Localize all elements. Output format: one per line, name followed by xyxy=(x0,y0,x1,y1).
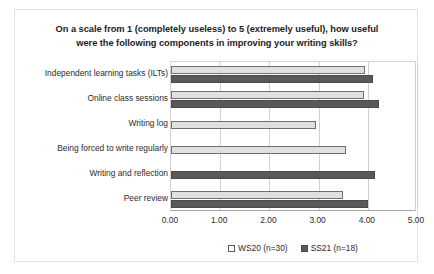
y-axis-labels: Independent learning tasks (ILTs)Online … xyxy=(17,61,168,211)
x-axis-tick-labels: 0.001.002.003.004.005.00 xyxy=(170,215,416,229)
bar xyxy=(171,200,368,208)
y-axis-label: Writing log xyxy=(20,118,168,128)
bar-group xyxy=(171,112,415,137)
bar xyxy=(171,171,375,179)
bar-group xyxy=(171,187,415,212)
legend-label: WS20 (n=30) xyxy=(238,243,288,253)
y-axis-label: Independent learning tasks (ILTs) xyxy=(20,68,168,78)
chart-card: On a scale from 1 (completely useless) t… xyxy=(14,9,418,262)
bar-group xyxy=(171,162,415,187)
chart-title: On a scale from 1 (completely useless) t… xyxy=(41,23,393,50)
bar xyxy=(171,75,373,83)
bar xyxy=(171,100,379,108)
bar-group xyxy=(171,62,415,87)
legend-entry[interactable]: SS21 (n=18) xyxy=(301,243,358,253)
open-square-icon xyxy=(228,245,235,252)
x-axis-tick-label: 1.00 xyxy=(211,215,227,225)
x-axis-tick-label: 3.00 xyxy=(309,215,325,225)
bar xyxy=(171,66,365,74)
bar xyxy=(171,121,316,129)
y-axis-label: Online class sessions xyxy=(20,93,168,103)
x-axis-tick-label: 4.00 xyxy=(359,215,375,225)
bar xyxy=(171,146,346,154)
bar xyxy=(171,91,364,99)
legend-entry[interactable]: WS20 (n=30) xyxy=(228,243,288,253)
bar-group xyxy=(171,87,415,112)
gridline xyxy=(417,62,418,210)
filled-square-icon xyxy=(301,245,308,252)
chart-title-line-1: On a scale from 1 (completely useless) t… xyxy=(41,23,393,37)
chart-title-line-2: were the following components in improvi… xyxy=(41,37,393,51)
y-axis-label: Writing and reflection xyxy=(20,168,168,178)
legend-label: SS21 (n=18) xyxy=(311,243,358,253)
y-axis-label: Being forced to write regularly xyxy=(20,143,168,153)
chart-legend: WS20 (n=30)SS21 (n=18) xyxy=(170,243,416,253)
x-axis-tick-label: 5.00 xyxy=(408,215,424,225)
x-axis-tick-label: 2.00 xyxy=(260,215,276,225)
y-axis-label: Peer review xyxy=(20,193,168,203)
x-axis-tick-label: 0.00 xyxy=(162,215,178,225)
plot-area xyxy=(170,61,416,211)
bar xyxy=(171,191,343,199)
bar-group xyxy=(171,137,415,162)
